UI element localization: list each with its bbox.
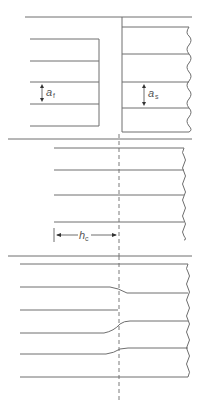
double-arrow-icon bbox=[142, 84, 146, 106]
label-a: a bbox=[148, 87, 154, 99]
left-layer-block: a f bbox=[30, 39, 99, 126]
dimension-hc: h c bbox=[54, 228, 117, 242]
label-subscript-c: c bbox=[85, 235, 89, 242]
panel-middle: h c bbox=[8, 134, 192, 256]
panel-top: a f a s bbox=[25, 17, 192, 132]
diagram-canvas: a f a s bbox=[0, 0, 200, 408]
panel-bottom bbox=[8, 256, 192, 400]
label-a: a bbox=[46, 86, 52, 98]
label-subscript-s: s bbox=[155, 93, 159, 100]
double-arrow-icon bbox=[40, 84, 44, 102]
label-subscript-f: f bbox=[53, 92, 55, 99]
wavy-edge bbox=[187, 27, 191, 132]
wavy-edge bbox=[183, 148, 186, 240]
right-layer-block: a s bbox=[122, 27, 191, 132]
